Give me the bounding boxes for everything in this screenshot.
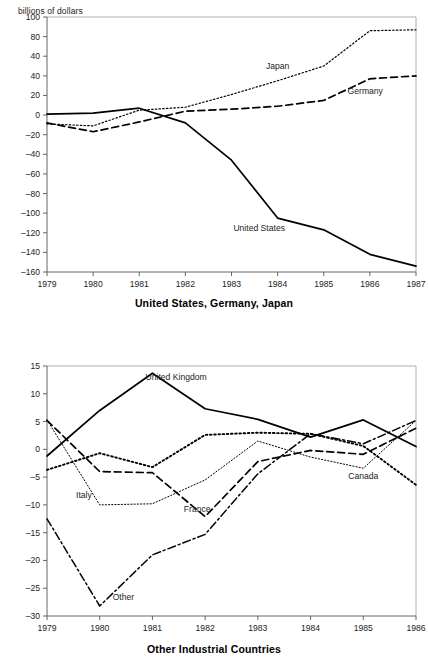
figure-page: billions of dollars 100804040200–20–40–6… — [0, 0, 428, 664]
svg-text:France: France — [184, 504, 211, 514]
svg-text:–10: –10 — [26, 500, 41, 510]
svg-text:1983: 1983 — [248, 623, 267, 633]
svg-text:1981: 1981 — [130, 279, 149, 289]
svg-text:1986: 1986 — [360, 279, 379, 289]
svg-text:20: 20 — [30, 90, 40, 100]
svg-text:1979: 1979 — [37, 279, 56, 289]
svg-text:–30: –30 — [26, 611, 41, 621]
chart-plot-bottom: 151050–5–10–15–20–25–3019791980198119821… — [0, 336, 428, 640]
svg-text:10: 10 — [30, 389, 40, 399]
svg-text:–25: –25 — [26, 583, 41, 593]
svg-text:1986: 1986 — [406, 623, 425, 633]
svg-text:100: 100 — [26, 12, 41, 22]
svg-text:1982: 1982 — [196, 623, 215, 633]
svg-text:–20: –20 — [26, 555, 41, 565]
svg-text:80: 80 — [30, 32, 40, 42]
svg-text:–120: –120 — [21, 228, 40, 238]
svg-text:–100: –100 — [21, 208, 40, 218]
svg-text:United States: United States — [233, 223, 285, 233]
svg-text:United Kingdom: United Kingdom — [146, 372, 207, 382]
svg-text:40: 40 — [30, 71, 40, 81]
svg-text:Italy: Italy — [76, 490, 92, 500]
svg-text:1982: 1982 — [176, 279, 195, 289]
svg-text:–5: –5 — [30, 472, 40, 482]
svg-text:–40: –40 — [26, 149, 41, 159]
chart-caption-top: United States, Germany, Japan — [0, 297, 428, 309]
svg-text:–80: –80 — [26, 189, 41, 199]
svg-text:Japan: Japan — [266, 61, 290, 71]
svg-text:–60: –60 — [26, 169, 41, 179]
svg-text:1980: 1980 — [84, 279, 103, 289]
svg-text:1985: 1985 — [314, 279, 333, 289]
svg-text:–160: –160 — [21, 267, 40, 277]
svg-text:40: 40 — [30, 51, 40, 61]
svg-text:1984: 1984 — [268, 279, 287, 289]
svg-text:Canada: Canada — [348, 471, 378, 481]
svg-text:0: 0 — [35, 110, 40, 120]
svg-text:0: 0 — [35, 444, 40, 454]
svg-text:1987: 1987 — [406, 279, 425, 289]
chart-panel-top: billions of dollars 100804040200–20–40–6… — [0, 0, 428, 330]
svg-text:1984: 1984 — [301, 623, 320, 633]
svg-text:Other: Other — [113, 592, 135, 602]
svg-text:–20: –20 — [26, 130, 41, 140]
chart-caption-bottom: Other Industrial Countries — [0, 643, 428, 655]
svg-text:1985: 1985 — [354, 623, 373, 633]
chart-panel-bottom: 151050–5–10–15–20–25–3019791980198119821… — [0, 336, 428, 664]
svg-text:–15: –15 — [26, 528, 41, 538]
svg-text:5: 5 — [35, 417, 40, 427]
svg-text:1981: 1981 — [143, 623, 162, 633]
svg-text:Germany: Germany — [348, 86, 384, 96]
svg-text:1980: 1980 — [90, 623, 109, 633]
svg-text:–140: –140 — [21, 247, 40, 257]
svg-text:1983: 1983 — [222, 279, 241, 289]
chart-plot-top: 100804040200–20–40–60–80–100–120–140–160… — [0, 0, 428, 300]
svg-text:1979: 1979 — [37, 623, 56, 633]
svg-text:15: 15 — [30, 361, 40, 371]
